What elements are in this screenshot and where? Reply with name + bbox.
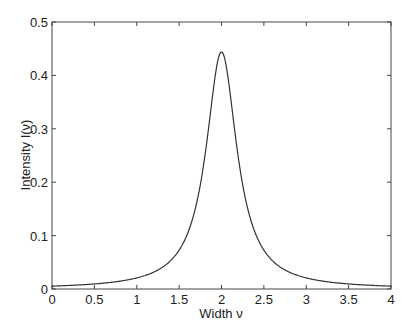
- y-axis-label: Intensity I(ν): [18, 120, 33, 191]
- line-chart: 00.511.522.533.54 00.10.20.30.40.5 Width…: [0, 0, 415, 331]
- x-tick-label: 2.5: [255, 292, 273, 307]
- x-axis-label: Width ν: [199, 306, 242, 321]
- x-tick-label: 3: [303, 292, 310, 307]
- y-tick-label: 0.4: [30, 68, 48, 83]
- plot-area: [52, 22, 391, 289]
- y-tick-label: 0.5: [30, 15, 48, 30]
- x-tick-label: 2: [218, 292, 225, 307]
- x-tick-label: 0.5: [85, 292, 103, 307]
- y-tick-label: 0: [41, 282, 48, 297]
- x-tick-label: 3.5: [340, 292, 358, 307]
- y-tick-label: 0.1: [30, 229, 48, 244]
- x-tick-label: 4: [387, 292, 394, 307]
- x-tick-label: 0: [48, 292, 55, 307]
- x-tick-label: 1.5: [170, 292, 188, 307]
- x-tick-label: 1: [133, 292, 140, 307]
